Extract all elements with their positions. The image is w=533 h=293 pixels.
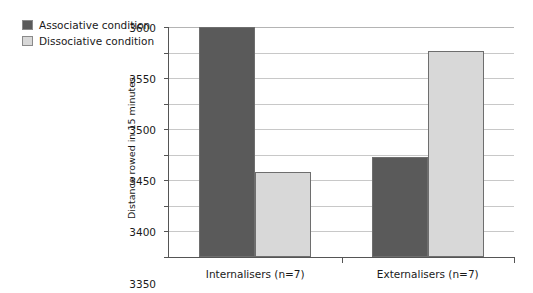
x-tick-mark [514, 257, 515, 263]
x-group-label: Internalisers (n=7) [206, 268, 305, 280]
legend-swatch-dissociative [22, 36, 33, 46]
y-tick-label: 3450 [129, 175, 156, 187]
y-tick-mark: 3450 [164, 104, 169, 105]
y-tick-mark: 3150 [164, 257, 169, 258]
legend-swatch-associative [22, 20, 33, 30]
x-tick-mark [342, 257, 343, 263]
y-tick-mark: 3400 [164, 129, 169, 130]
legend-item-dissociative: Dissociative condition [22, 34, 154, 47]
bar-chart: Associative condition Dissociative condi… [0, 0, 533, 293]
y-tick-mark: 3350 [164, 155, 169, 156]
y-tick-label: 3600 [129, 22, 156, 34]
bar [255, 172, 311, 257]
bar [372, 157, 428, 257]
y-tick-label: 3550 [129, 73, 156, 85]
y-tick-mark: 3300 [164, 180, 169, 181]
y-tick-mark: 3550 [164, 53, 169, 54]
plot-area: 3150320032503300335034003450350035503600… [168, 27, 514, 258]
y-tick-label: 3400 [129, 226, 156, 238]
legend-label-dissociative: Dissociative condition [39, 35, 154, 47]
y-tick-label: 3500 [129, 124, 156, 136]
x-group-label: Externalisers (n=7) [377, 268, 479, 280]
y-tick-mark: 3250 [164, 206, 169, 207]
bar [428, 51, 484, 257]
y-tick-mark: 3600 [164, 27, 169, 28]
bar [199, 27, 255, 257]
y-tick-label: 3350 [129, 278, 156, 290]
y-tick-mark: 3500 [164, 78, 169, 79]
y-tick-mark: 3200 [164, 231, 169, 232]
